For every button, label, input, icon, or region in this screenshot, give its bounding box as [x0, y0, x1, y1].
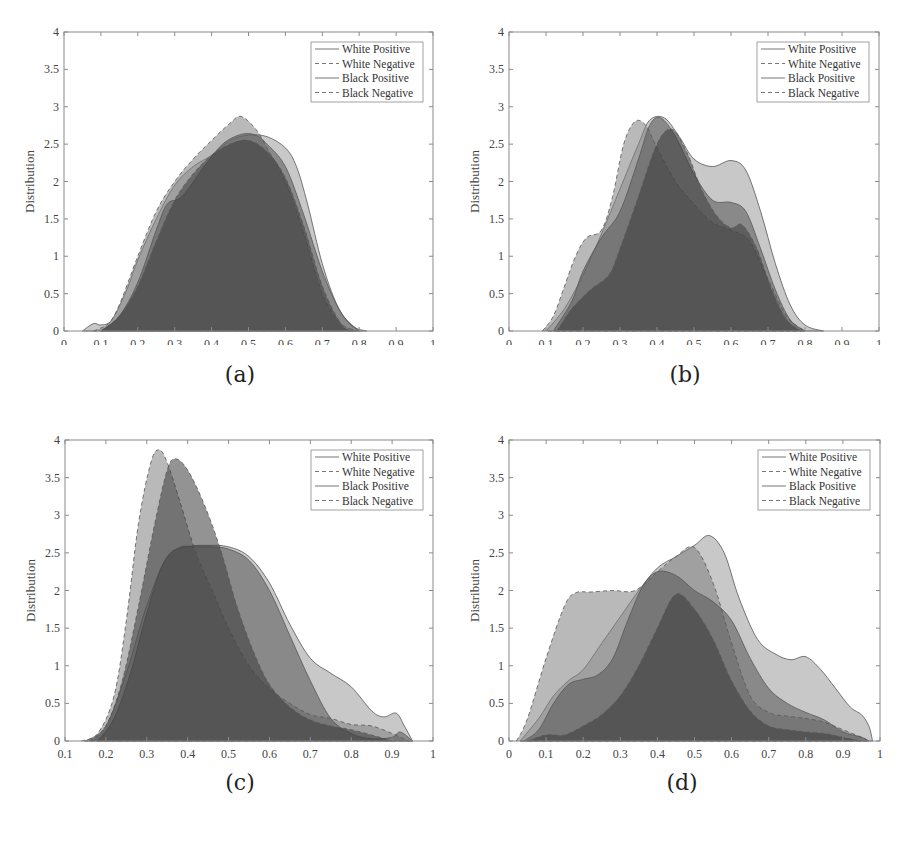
y-tick-label: 2.5	[45, 546, 60, 560]
x-tick-label: 0.9	[835, 337, 850, 345]
x-tick-label: 0.8	[352, 337, 367, 345]
legend-label: White Positive	[789, 451, 857, 463]
x-tick-label: 0.2	[576, 747, 591, 761]
legend-label: White Negative	[789, 466, 861, 479]
y-tick-label: 3.5	[44, 62, 59, 76]
series-areas	[542, 116, 823, 331]
x-tick-label: 1	[877, 747, 883, 761]
legend: White PositiveWhite NegativeBlack Positi…	[757, 42, 869, 102]
x-tick-label: 0.3	[613, 747, 628, 761]
y-tick-label: 1	[54, 659, 60, 673]
x-tick-label: 0.5	[687, 337, 702, 345]
x-tick-label: 0.4	[180, 747, 195, 761]
x-tick-label: 0.6	[724, 337, 739, 345]
y-tick-label: 3	[498, 508, 504, 522]
legend-label: Black Negative	[789, 495, 860, 508]
x-tick-label: 0.6	[278, 337, 293, 345]
x-axis-label: Score	[680, 761, 710, 765]
y-tick-label: 2	[54, 584, 60, 598]
legend-label: Black Negative	[342, 495, 413, 508]
y-axis-label: Distribution	[467, 559, 482, 622]
density-chart: 0.10.20.30.40.50.60.70.80.9100.511.522.5…	[0, 420, 452, 765]
x-tick-label: 0.3	[613, 337, 628, 345]
x-tick-label: 0.3	[139, 747, 154, 761]
chart-panel-d: 00.10.20.30.40.50.60.70.80.9100.511.522.…	[452, 420, 905, 765]
legend-label: White Negative	[788, 58, 860, 71]
y-tick-label: 3.5	[45, 471, 60, 485]
y-axis-label: Distribution	[22, 150, 37, 213]
y-tick-label: 0.5	[489, 287, 504, 301]
legend-label: Black Positive	[342, 72, 409, 84]
x-tick-label: 0.7	[761, 337, 776, 345]
x-tick-label: 0.1	[539, 337, 554, 345]
x-tick-label: 0.6	[724, 747, 739, 761]
y-tick-label: 0	[498, 734, 504, 748]
x-tick-label: 0.6	[262, 747, 277, 761]
y-tick-label: 0.5	[489, 696, 504, 710]
y-tick-label: 1.5	[45, 621, 60, 635]
y-tick-label: 0	[498, 324, 504, 338]
panel-caption: (c)	[180, 770, 300, 795]
y-tick-label: 1.5	[489, 212, 504, 226]
x-tick-label: 0.5	[687, 747, 702, 761]
legend: White PositiveWhite NegativeBlack Positi…	[311, 42, 423, 102]
x-tick-label: 0.4	[650, 337, 665, 345]
x-tick-label: 0.7	[315, 337, 330, 345]
y-tick-label: 1	[498, 659, 504, 673]
legend-label: Black Positive	[789, 480, 856, 492]
chart-panel-a: 00.10.20.30.40.50.60.70.80.9100.511.522.…	[0, 0, 452, 420]
y-tick-label: 1.5	[489, 621, 504, 635]
legend-label: Black Positive	[342, 480, 409, 492]
chart-panel-b: 00.10.20.30.40.50.60.70.80.9100.511.522.…	[452, 0, 905, 420]
y-tick-label: 4	[498, 25, 504, 39]
y-tick-label: 1	[498, 249, 504, 263]
x-tick-label: 1	[430, 747, 436, 761]
density-chart: 00.10.20.30.40.50.60.70.80.9100.511.522.…	[452, 420, 905, 765]
series-areas	[82, 116, 366, 331]
y-axis-label: Distribution	[23, 559, 38, 622]
y-tick-label: 4	[53, 25, 59, 39]
y-tick-label: 0.5	[45, 696, 60, 710]
y-axis-label: Distribution	[467, 150, 482, 213]
x-tick-label: 0.5	[241, 337, 256, 345]
legend-label: Black Negative	[342, 87, 413, 100]
x-tick-label: 0	[61, 337, 67, 345]
x-axis-label: Score	[234, 761, 264, 765]
legend-label: White Positive	[342, 451, 410, 463]
y-tick-label: 2	[498, 175, 504, 189]
y-tick-label: 3.5	[489, 62, 504, 76]
y-tick-label: 3.5	[489, 471, 504, 485]
y-tick-label: 4	[498, 433, 504, 447]
x-tick-label: 0	[506, 747, 512, 761]
x-tick-label: 0.4	[650, 747, 665, 761]
y-tick-label: 3	[498, 100, 504, 114]
x-tick-label: 0.7	[761, 747, 776, 761]
y-tick-label: 3	[53, 100, 59, 114]
chart-panel-c: 0.10.20.30.40.50.60.70.80.9100.511.522.5…	[0, 420, 452, 765]
x-tick-label: 0	[506, 337, 512, 345]
x-tick-label: 0.1	[539, 747, 554, 761]
y-tick-label: 0	[53, 324, 59, 338]
legend-label: White Negative	[342, 58, 414, 71]
x-tick-label: 1	[430, 337, 436, 345]
x-tick-label: 0.8	[798, 337, 813, 345]
series-areas	[516, 535, 872, 741]
y-tick-label: 4	[54, 433, 60, 447]
x-tick-label: 0.9	[835, 747, 850, 761]
y-tick-label: 0	[54, 734, 60, 748]
y-tick-label: 2.5	[489, 137, 504, 151]
x-tick-label: 0.8	[798, 747, 813, 761]
y-tick-label: 3	[54, 508, 60, 522]
y-tick-label: 2	[53, 175, 59, 189]
y-tick-label: 0.5	[44, 287, 59, 301]
x-tick-label: 1	[876, 337, 882, 345]
x-tick-label: 0.3	[167, 337, 182, 345]
legend-label: White Positive	[788, 43, 856, 55]
panel-caption: (b)	[625, 362, 745, 387]
density-chart: 00.10.20.30.40.50.60.70.80.9100.511.522.…	[0, 0, 452, 345]
x-tick-label: 0.5	[221, 747, 236, 761]
panel-caption: (d)	[622, 770, 742, 795]
legend: White PositiveWhite NegativeBlack Positi…	[758, 450, 870, 510]
y-tick-label: 1.5	[44, 212, 59, 226]
y-tick-label: 2.5	[44, 137, 59, 151]
